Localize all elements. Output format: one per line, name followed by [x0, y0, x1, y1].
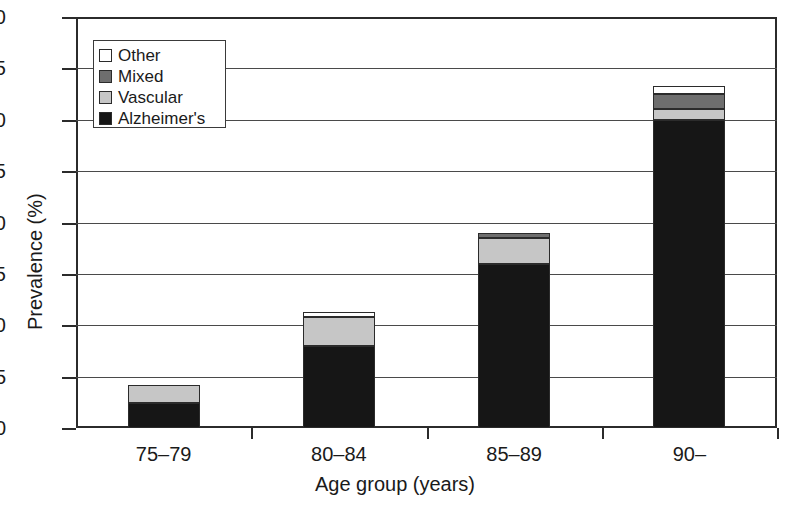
bar-segment-other: [653, 86, 725, 94]
x-tick-mark: [777, 428, 779, 439]
y-tick-mark: [62, 171, 76, 173]
y-tick-label: 30: [0, 110, 6, 130]
x-tick-mark: [427, 428, 429, 439]
y-tick-mark: [62, 428, 76, 430]
y-tick-mark: [62, 377, 76, 379]
y-tick-mark: [62, 274, 76, 276]
x-axis-title: Age group (years): [0, 473, 790, 496]
bar-90–: [653, 86, 725, 428]
bar-segment-alzheimers: [653, 120, 725, 428]
x-tick-label: 75–79: [84, 443, 244, 466]
bar-segment-alzheimers: [478, 264, 550, 428]
y-tick-mark: [62, 68, 76, 70]
y-tick-label: 40: [0, 7, 6, 27]
y-tick-mark: [62, 325, 76, 327]
x-tick-label: 85–89: [434, 443, 594, 466]
bar-80–84: [303, 312, 375, 428]
bar-75–79: [128, 385, 200, 428]
legend-label: Alzheimer's: [118, 110, 205, 127]
legend-item-vascular: Vascular: [99, 87, 225, 107]
bar-segment-mixed: [478, 233, 550, 238]
bar-segment-alzheimers: [303, 346, 375, 428]
x-tick-label: 80–84: [259, 443, 419, 466]
bar-segment-vascular: [303, 317, 375, 346]
legend-label: Other: [118, 47, 161, 64]
y-tick-label: 5: [0, 367, 6, 387]
bar-85–89: [478, 233, 550, 428]
y-axis-title: Prevalence (%): [24, 193, 47, 330]
y-tick-mark: [62, 120, 76, 122]
legend-swatch: [99, 70, 112, 83]
y-tick-label: 20: [0, 213, 6, 233]
bar-segment-vascular: [478, 238, 550, 264]
x-tick-mark: [602, 428, 604, 439]
legend-swatch: [99, 49, 112, 62]
y-tick-mark: [62, 223, 76, 225]
y-tick-label: 25: [0, 161, 6, 181]
y-tick-label: 0: [0, 418, 6, 438]
legend-item-alzheimers: Alzheimer's: [99, 108, 225, 128]
legend-item-mixed: Mixed: [99, 66, 225, 86]
bar-segment-vascular: [128, 385, 200, 403]
legend-label: Vascular: [118, 89, 183, 106]
bar-segment-other: [303, 312, 375, 317]
legend-item-other: Other: [99, 45, 225, 65]
legend-label: Mixed: [118, 68, 163, 85]
x-tick-label: 90–: [609, 443, 769, 466]
y-tick-label: 35: [0, 58, 6, 78]
x-tick-mark: [251, 428, 253, 439]
legend: OtherMixedVascularAlzheimer's: [93, 40, 226, 128]
y-tick-mark: [62, 17, 76, 19]
y-tick-label: 10: [0, 315, 6, 335]
bar-segment-mixed: [653, 94, 725, 109]
prevalence-by-age-group-chart: 0510152025303540 75–7980–8485–8990– Prev…: [0, 0, 790, 508]
legend-swatch: [99, 112, 112, 125]
legend-swatch: [99, 91, 112, 104]
bar-segment-vascular: [653, 109, 725, 119]
bar-segment-alzheimers: [128, 403, 200, 428]
y-tick-label: 15: [0, 264, 6, 284]
